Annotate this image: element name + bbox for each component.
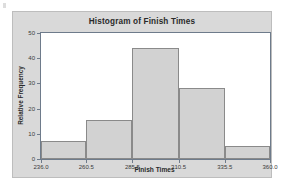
y-axis-tick-label: 40 (28, 55, 35, 61)
y-axis-tick (37, 58, 41, 59)
y-axis-tick-label: 0 (32, 156, 35, 162)
histogram-bar (179, 88, 225, 159)
bars-layer (41, 33, 270, 159)
histogram-bar (86, 120, 132, 159)
x-axis-tick (132, 159, 133, 163)
y-axis-tick-label: 30 (28, 80, 35, 86)
x-axis-tick (86, 159, 87, 163)
x-axis-tick (179, 159, 180, 163)
histogram-bar (132, 48, 178, 159)
y-axis-tick (37, 33, 41, 34)
x-axis-tick (41, 159, 42, 163)
histogram-bar (41, 141, 86, 159)
y-axis-title: Relative Frequency (15, 32, 25, 158)
y-axis-tick (37, 134, 41, 135)
y-axis-tick-label: 50 (28, 30, 35, 36)
y-axis-tick (37, 83, 41, 84)
chart-title: Histogram of Finish Times (13, 17, 271, 26)
y-axis-tick-label: 10 (28, 131, 35, 137)
x-axis-tick (270, 159, 271, 163)
scan-artifact (3, 3, 6, 8)
y-axis-tick (37, 109, 41, 110)
y-axis-title-label: Relative Frequency (17, 66, 24, 125)
y-axis-tick-label: 20 (28, 106, 35, 112)
histogram-bar (225, 146, 270, 159)
x-axis-tick (225, 159, 226, 163)
histogram-figure-panel: Histogram of Finish Times Relative Frequ… (12, 11, 272, 178)
plot-area: 01020304050 236.0260.5285.5310.5335.5360… (40, 32, 271, 160)
x-axis-title: Finish Times (40, 166, 269, 173)
